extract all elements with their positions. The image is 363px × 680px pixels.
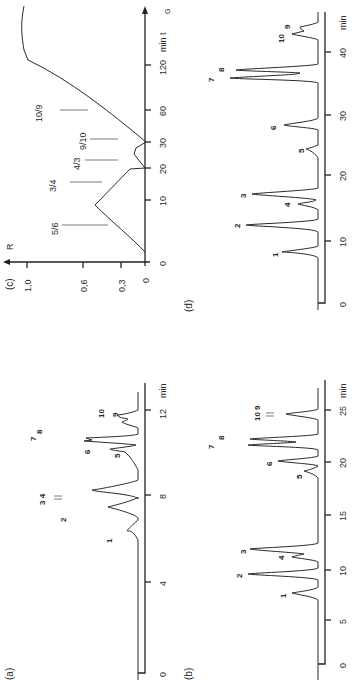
b-xtick-label: 10 — [338, 566, 348, 576]
d-xtick-label: 0 — [338, 302, 348, 307]
panel-c-label: (c) — [4, 278, 15, 290]
b-xtick-label: 25 — [338, 406, 348, 416]
d-peak-label: 6 — [269, 125, 278, 130]
d-peak-label: 8 — [217, 67, 226, 72]
a-peak-label: 6 — [83, 449, 92, 454]
b-chromatogram-trace — [248, 388, 318, 680]
b-xtick-label: 20 — [338, 458, 348, 468]
a-peak-label: 7 — [29, 436, 38, 441]
panel-b: (b) 0 5 10 15 20 25 min 1 2 4 3 5 6 7 8 … — [183, 380, 348, 680]
c-annotation: 10/9 — [34, 104, 44, 122]
c-r-axis-label: R — [5, 243, 15, 250]
b-peak-label: 6 — [265, 461, 274, 466]
a-xtick-label: 12 — [158, 409, 168, 419]
d-xtick-label: 20 — [338, 171, 348, 181]
b-peak-label: 4 — [277, 555, 286, 560]
c-annotation: 3/4 — [48, 179, 58, 192]
panel-a: (a) 0 4 8 12 min 1 2 3 4 5 6 7 8 9 10 — [4, 383, 168, 680]
c-xtick-label: 60 — [158, 106, 168, 116]
panel-d: (d) 0 10 20 30 40 min 1 2 4 3 5 6 7 8 10… — [183, 12, 348, 312]
b-peak-label: 2 — [235, 573, 244, 578]
a-peak-label: 10 — [97, 409, 106, 418]
c-r-axis-arrow-icon — [3, 259, 10, 265]
c-ytick-label: 0 — [141, 278, 151, 283]
panel-b-label: (b) — [183, 668, 194, 680]
b-xtick-label: 0 — [338, 663, 348, 668]
b-peak-label: 3 — [239, 549, 248, 554]
b-xtick-label: 5 — [338, 619, 348, 624]
c-xtick-label: 120 — [158, 60, 168, 75]
b-peak-label: 7 — [207, 444, 216, 449]
a-peak-label: 2 — [59, 517, 68, 522]
c-tg-axis-arrow-icon — [142, 6, 148, 14]
a-xtick-label: 8 — [158, 494, 168, 499]
a-peak-label: 5 — [113, 453, 122, 458]
b-peak-label: 1 — [279, 593, 288, 598]
c-ytick-label: 0,3 — [117, 279, 127, 292]
panel-a-label: (a) — [4, 668, 15, 680]
a-time-axis — [138, 383, 145, 673]
c-ytick-label: 0,6 — [79, 279, 89, 292]
a-peak-label: 3 4 — [38, 493, 47, 505]
d-xtick-label: 30 — [338, 111, 348, 121]
a-chromatogram-trace — [84, 392, 138, 680]
d-xtick-label: 40 — [338, 48, 348, 58]
a-xaxis-label: min — [158, 383, 168, 398]
c-xtick-label: 0 — [158, 261, 168, 266]
b-time-axis — [318, 380, 325, 664]
c-xtick-label: 20 — [158, 164, 168, 174]
a-xtick-label: 0 — [158, 672, 168, 677]
c-xtick-label: 10 — [158, 196, 168, 206]
a-xtick-label: 4 — [158, 581, 168, 586]
d-peak-label: 4 — [283, 202, 292, 207]
a-peak-label: 8 — [35, 429, 44, 434]
b-xaxis-label: min — [338, 383, 348, 398]
c-xaxis-label-sub: G — [164, 9, 171, 14]
c-ytick-label: 1,0 — [23, 279, 33, 292]
d-peak-label: 1 — [271, 252, 280, 257]
a-peak-label: 1 — [105, 538, 114, 543]
d-peak-label: 3 — [239, 193, 248, 198]
b-peak-label: 5 — [295, 474, 304, 479]
d-xtick-label: 10 — [338, 237, 348, 247]
c-r-curve — [22, 6, 146, 252]
d-peak-label: 10 — [277, 34, 286, 43]
c-annotation: 5/6 — [50, 222, 60, 235]
d-peak-label: 5 — [297, 148, 306, 153]
panel-d-label: (d) — [183, 300, 194, 312]
c-xaxis-label: min t — [158, 32, 168, 52]
b-xtick-label: 15 — [338, 511, 348, 521]
d-xaxis-label: min — [338, 15, 348, 30]
d-peak-label: 9 — [283, 24, 292, 29]
d-peak-label: 2 — [233, 223, 242, 228]
chromatogram-figure: (c) R 1,0 0,6 0,3 0 0 10 20 30 60 120 mi… — [0, 0, 363, 680]
b-peak-label: 10 9 — [253, 405, 262, 421]
b-peak-label: 8 — [217, 435, 226, 440]
a-peak-label: 9 — [111, 412, 120, 417]
panel-c: (c) R 1,0 0,6 0,3 0 0 10 20 30 60 120 mi… — [3, 6, 171, 292]
d-time-axis — [318, 12, 325, 303]
d-chromatogram-trace — [230, 12, 318, 310]
c-annotation: 9/10 — [78, 132, 88, 150]
c-annotation: 4/3 — [72, 157, 82, 170]
c-xtick-label: 30 — [158, 138, 168, 148]
d-peak-label: 7 — [207, 77, 216, 82]
